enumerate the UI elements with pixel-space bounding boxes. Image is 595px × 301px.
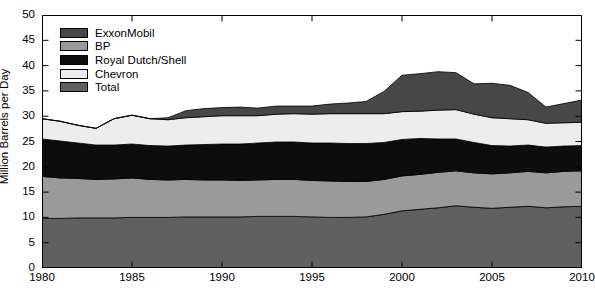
x-tick-label: 1980 bbox=[29, 272, 55, 284]
chart-legend: ExxonMobilBPRoyal Dutch/ShellChevronTota… bbox=[60, 26, 186, 94]
legend-item: Chevron bbox=[60, 67, 186, 81]
legend-item: ExxonMobil bbox=[60, 26, 186, 40]
legend-label: Total bbox=[95, 81, 119, 93]
legend-item: Royal Dutch/Shell bbox=[60, 53, 186, 67]
legend-item: BP bbox=[60, 40, 186, 54]
legend-swatch bbox=[60, 69, 88, 79]
legend-swatch bbox=[60, 82, 88, 92]
legend-label: BP bbox=[95, 40, 110, 52]
legend-label: ExxonMobil bbox=[95, 27, 154, 39]
legend-label: Chevron bbox=[95, 68, 138, 80]
legend-swatch bbox=[60, 28, 88, 38]
legend-swatch bbox=[60, 41, 88, 51]
legend-swatch bbox=[60, 55, 88, 65]
x-tick-label: 1985 bbox=[119, 272, 145, 284]
x-tick-label: 2005 bbox=[479, 272, 505, 284]
x-tick-label: 1995 bbox=[299, 272, 325, 284]
legend-item: Total bbox=[60, 80, 186, 94]
legend-label: Royal Dutch/Shell bbox=[95, 54, 186, 66]
x-tick-label: 2010 bbox=[569, 272, 595, 284]
x-tick-label: 1990 bbox=[209, 272, 235, 284]
x-tick-label: 2000 bbox=[389, 272, 415, 284]
